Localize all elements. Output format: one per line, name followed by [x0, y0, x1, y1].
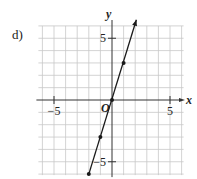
- plotted-line: [89, 20, 137, 174]
- line-arrow-icon: [132, 20, 137, 26]
- y-tick-label: −5: [93, 155, 106, 169]
- y-axis-label: y: [104, 7, 112, 21]
- x-tick-label: −5: [48, 104, 61, 118]
- y-tick-label: 5: [100, 31, 106, 45]
- data-point: [98, 135, 102, 139]
- x-tick-label: 5: [167, 104, 173, 118]
- coordinate-graph: −555−5 x y O: [0, 0, 197, 179]
- data-point: [122, 61, 126, 65]
- data-point: [87, 172, 91, 176]
- x-axis-label: x: [185, 93, 192, 107]
- data-point: [110, 98, 114, 102]
